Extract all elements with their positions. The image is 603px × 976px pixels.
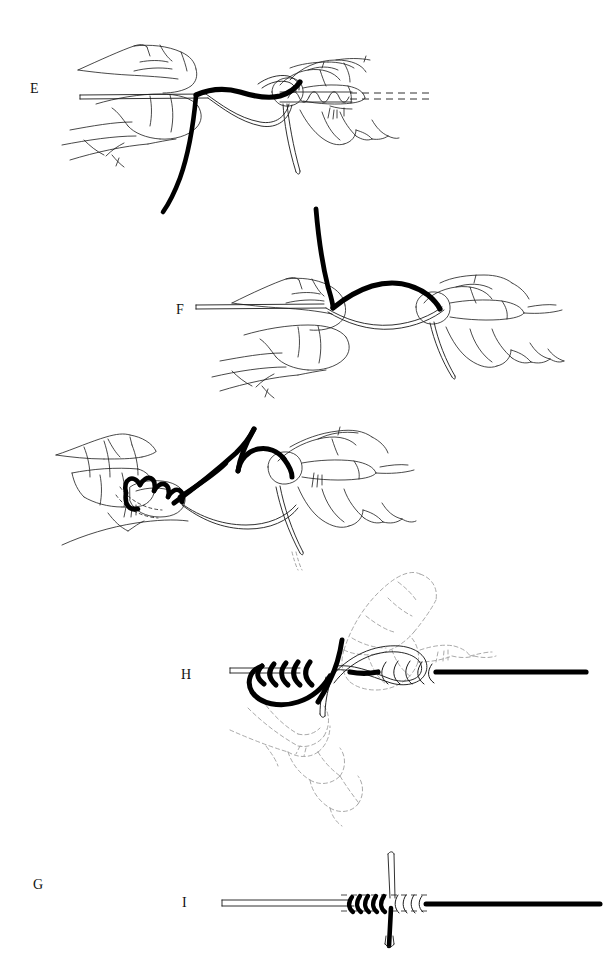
- panel-I-drawing: [0, 840, 603, 976]
- vertical-white-tag-up-I: [388, 852, 395, 898]
- thick-black-tag-F: [316, 209, 333, 308]
- black-coils-I: [349, 896, 385, 912]
- thin-leader-line: [80, 94, 208, 99]
- ghost-hand-lower-H: [230, 700, 363, 826]
- panel-label-I: I: [182, 896, 187, 910]
- panel-F-drawing: [0, 195, 603, 395]
- panel-E-drawing: [0, 0, 603, 210]
- thin-leader-line-H: [230, 668, 300, 673]
- panel-label-E: E: [30, 82, 39, 96]
- vertical-black-tag-down-I: [389, 908, 391, 946]
- dashed-line-extension-E: [350, 93, 432, 99]
- knot-diagram-figure: E: [0, 0, 603, 976]
- panel-H-drawing: [0, 550, 603, 820]
- black-tag-end-H: [318, 640, 342, 702]
- thick-black-line-right-H: [350, 672, 586, 674]
- panel-G: G: [0, 395, 603, 570]
- thin-leader-line-I: [222, 900, 354, 906]
- panel-I: I: [0, 840, 603, 976]
- thin-loop-H: [320, 646, 427, 718]
- panel-H: H: [0, 550, 603, 820]
- thick-black-arc-F: [333, 283, 440, 309]
- panel-F: F: [0, 195, 603, 395]
- panel-E: E: [0, 0, 603, 210]
- thick-black-line-E: [196, 82, 300, 97]
- panel-label-F: F: [176, 303, 184, 317]
- panel-G-drawing: [0, 395, 603, 570]
- white-coils-I: [395, 895, 423, 913]
- panel-label-H: H: [181, 668, 191, 682]
